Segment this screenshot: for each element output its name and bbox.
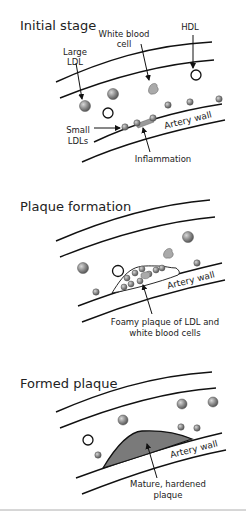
small-ldl-particle bbox=[216, 96, 222, 102]
ldl-particle bbox=[118, 415, 128, 425]
large-ldl-particle bbox=[108, 89, 119, 100]
small-ldl-particle bbox=[93, 289, 99, 295]
ldl-particle bbox=[183, 232, 194, 243]
label-white-blood-cell: cell bbox=[117, 39, 132, 49]
label-mature-plaque: Mature, hardened bbox=[130, 479, 206, 489]
label-small-ldls: LDLs bbox=[68, 136, 89, 146]
panel-title: Plaque formation bbox=[20, 199, 131, 214]
foamy-plaque-arrow bbox=[143, 285, 152, 314]
hdl-particle bbox=[103, 108, 113, 118]
label-large-ldl: LDL bbox=[67, 57, 83, 67]
label-white-blood-cell: White blood bbox=[99, 29, 150, 39]
small-ldl-particle bbox=[134, 120, 140, 126]
panel-initial-stage: Initial stage Large LDL White blood cell bbox=[20, 18, 225, 164]
large-ldl-particle bbox=[80, 101, 91, 112]
small-ldl-particle bbox=[165, 102, 171, 108]
vessel-upper-inner-line bbox=[60, 388, 216, 428]
panel-plaque-formation: Plaque formation Artery wall Foamy plaqu… bbox=[20, 199, 225, 338]
panel-title: Formed plaque bbox=[20, 376, 117, 391]
small-ldl-particle bbox=[178, 424, 184, 430]
small-ldl-particle bbox=[150, 115, 156, 121]
hdl-particle bbox=[191, 70, 201, 80]
plaque-ldl bbox=[128, 281, 134, 287]
panel-title: Initial stage bbox=[20, 18, 96, 33]
plaque-ldl bbox=[132, 270, 138, 276]
hdl-particle bbox=[113, 266, 124, 277]
plaque-ldl bbox=[121, 284, 127, 290]
label-foamy-plaque: Foamy plaque of LDL and bbox=[111, 317, 219, 327]
label-large-ldl: Large bbox=[63, 47, 87, 57]
ldl-particle bbox=[78, 263, 89, 274]
plaque-ldl bbox=[139, 266, 145, 272]
white-blood-cell bbox=[164, 248, 174, 258]
small-ldl-particle bbox=[194, 425, 200, 431]
ldl-particle bbox=[177, 399, 187, 409]
atherosclerosis-diagram: Initial stage Large LDL White blood cell bbox=[0, 0, 246, 519]
white-blood-cell bbox=[149, 83, 159, 94]
label-mature-plaque: plaque bbox=[154, 490, 183, 500]
ldl-particle bbox=[208, 397, 218, 407]
panel-formed-plaque: Formed plaque Artery wall Mature, harden… bbox=[20, 372, 226, 500]
plaque-ldl bbox=[124, 275, 130, 281]
small-ldl-particle bbox=[122, 124, 128, 130]
hdl-particle bbox=[83, 435, 93, 445]
small-ldl-particle bbox=[194, 260, 200, 266]
plaque-ldl bbox=[137, 278, 143, 284]
plaque-white-blood-cell bbox=[141, 272, 150, 279]
plaque-ldl bbox=[153, 267, 159, 273]
wbc-arrow bbox=[141, 44, 149, 80]
small-ldl-particle bbox=[187, 99, 193, 105]
artery-wall-outer-line bbox=[82, 280, 225, 322]
large-ldl-arrow bbox=[76, 63, 82, 99]
vessel-upper-inner-line bbox=[60, 60, 214, 98]
small-ldl-particle bbox=[95, 452, 101, 458]
label-small-ldls: Small bbox=[66, 125, 90, 135]
plaque-ldl bbox=[159, 265, 165, 271]
label-hdl: HDL bbox=[181, 22, 199, 32]
label-foamy-plaque: white blood cells bbox=[129, 328, 201, 338]
label-inflammation: Inflammation bbox=[135, 154, 192, 164]
